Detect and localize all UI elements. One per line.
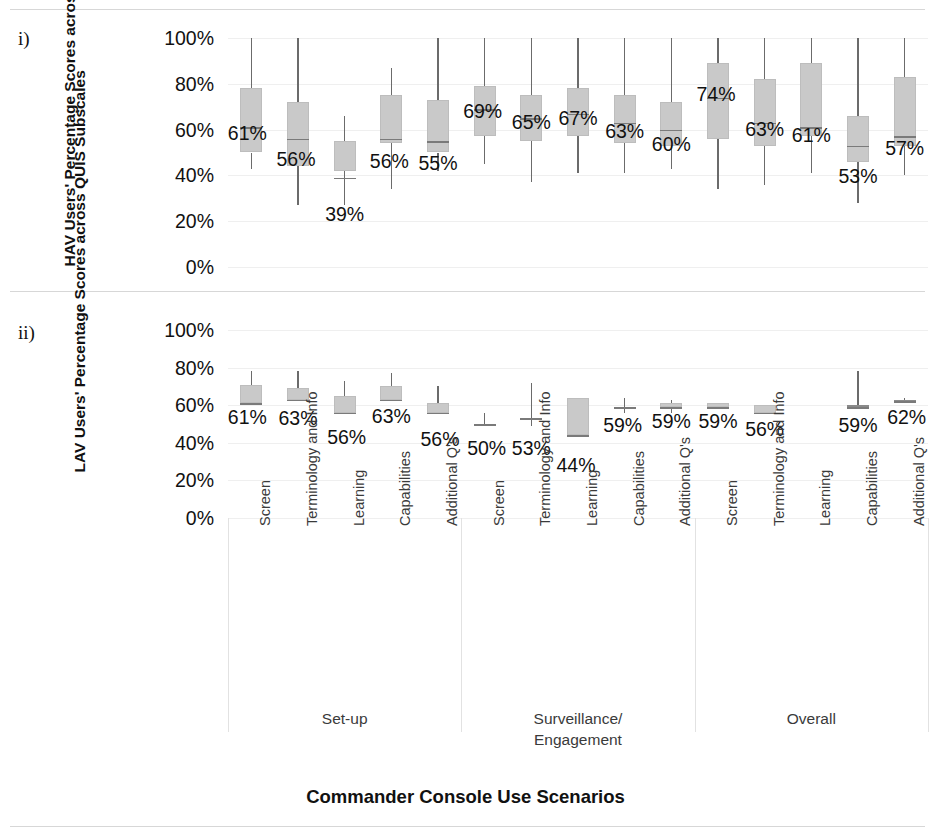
- x-axis-category-label: Capabilities: [397, 451, 413, 526]
- median-line: [847, 146, 869, 148]
- whisker-upper: [717, 38, 719, 63]
- box-value-label: 65%: [512, 111, 551, 134]
- group-label-line: Surveillance/: [461, 708, 694, 729]
- median-line: [334, 178, 356, 180]
- x-axis-category-label: Learning: [817, 470, 833, 526]
- box-iqr: [567, 398, 589, 436]
- median-line: [287, 139, 309, 141]
- y-axis-tick-label: 20%: [175, 469, 214, 492]
- y-axis-tick-label: 20%: [175, 210, 214, 233]
- whisker-lower: [484, 136, 486, 163]
- y-axis-tick-label: 80%: [175, 356, 214, 379]
- median-line: [427, 141, 449, 143]
- whisker-upper: [297, 38, 299, 102]
- group-label-line: Engagement: [461, 729, 694, 750]
- divider-top: [10, 9, 925, 10]
- median-line: [894, 401, 916, 403]
- whisker-upper: [624, 398, 626, 407]
- box-value-label: 59%: [652, 410, 691, 433]
- whisker-upper: [484, 413, 486, 424]
- median-line: [660, 407, 682, 409]
- x-axis-category-label: Screen: [491, 480, 507, 526]
- whisker-lower: [717, 139, 719, 189]
- x-axis-category-label: Terminology and Info: [304, 391, 320, 526]
- group-separator: [461, 518, 462, 732]
- median-line: [380, 400, 402, 402]
- y-axis-tick-label: 0%: [186, 507, 214, 530]
- median-line: [240, 403, 262, 405]
- box-value-label: 67%: [558, 106, 597, 129]
- divider-bottom: [10, 826, 925, 827]
- box-plot-panel-i-1: 56%: [275, 38, 322, 267]
- x-axis-category-label: Capabilities: [864, 451, 880, 526]
- whisker-lower: [764, 146, 766, 185]
- box-value-label: 63%: [745, 117, 784, 140]
- x-axis-category-label: Capabilities: [631, 451, 647, 526]
- box-value-label: 63%: [605, 119, 644, 142]
- whisker-upper: [251, 38, 253, 88]
- box-value-label: 74%: [696, 82, 735, 105]
- whisker-lower: [531, 141, 533, 182]
- x-axis-title: Commander Console Use Scenarios: [0, 786, 931, 808]
- x-axis-category-label: Screen: [724, 480, 740, 526]
- box-iqr: [334, 141, 356, 171]
- box-value-label: 59%: [603, 414, 642, 437]
- box-plot-panel-i-2: 39%: [321, 38, 368, 267]
- box-plot-panel-i-5: 69%: [461, 38, 508, 267]
- median-line: [847, 407, 869, 409]
- y-axis-tick-label: 100%: [164, 27, 214, 50]
- scenario-group-label: Overall: [695, 708, 928, 729]
- x-axis-category-label: Additional Q's: [444, 437, 460, 526]
- gridline: [228, 267, 928, 268]
- figure-root: i) HAV Users' Percentage Scores across Q…: [0, 0, 931, 834]
- whisker-upper: [484, 38, 486, 86]
- box-plot-panel-i-7: 67%: [555, 38, 602, 267]
- box-iqr: [427, 403, 449, 412]
- box-value-label: 39%: [325, 202, 364, 225]
- box-iqr: [380, 386, 402, 399]
- box-iqr: [240, 385, 262, 404]
- median-line: [334, 413, 356, 415]
- whisker-upper: [437, 38, 439, 100]
- whisker-upper: [857, 371, 859, 405]
- x-axis-category-label: Screen: [257, 480, 273, 526]
- group-separator: [695, 518, 696, 732]
- whisker-upper: [624, 38, 626, 95]
- median-line: [567, 435, 589, 437]
- box-value-label: 50%: [467, 437, 506, 460]
- box-value-label: 60%: [652, 132, 691, 155]
- x-axis-category-label: Terminology and Info: [537, 391, 553, 526]
- panel-letter-i: i): [18, 28, 30, 50]
- box-iqr: [334, 396, 356, 413]
- box-iqr: [847, 116, 869, 162]
- y-axis-tick-label: 80%: [175, 72, 214, 95]
- y-axis-tick-label: 100%: [164, 319, 214, 342]
- whisker-upper: [904, 38, 906, 77]
- median-line: [427, 413, 449, 415]
- median-line: [474, 424, 496, 426]
- box-plot-panel-i-9: 60%: [648, 38, 695, 267]
- group-label-line: Overall: [695, 708, 928, 729]
- box-plot-panel-i-14: 57%: [881, 38, 928, 267]
- x-axis-category-label: Additional Q's: [677, 437, 693, 526]
- box-iqr: [427, 100, 449, 153]
- x-axis-category-label: Learning: [351, 470, 367, 526]
- x-axis-category-label: Additional Q's: [911, 437, 927, 526]
- y-axis-tick-label: 60%: [175, 394, 214, 417]
- panel-i-plot-area: 0%20%40%60%80%100%61%56%39%56%55%69%65%6…: [228, 38, 928, 267]
- whisker-upper: [857, 38, 859, 116]
- whisker-lower: [251, 153, 253, 169]
- whisker-upper: [764, 38, 766, 79]
- whisker-upper: [671, 38, 673, 102]
- box-value-label: 59%: [698, 410, 737, 433]
- whisker-upper: [391, 373, 393, 386]
- box-plot-panel-i-10: 74%: [695, 38, 742, 267]
- y-axis-tick-label: 60%: [175, 118, 214, 141]
- whisker-upper: [251, 371, 253, 384]
- box-value-label: 53%: [838, 164, 877, 187]
- box-value-label: 55%: [418, 152, 457, 175]
- box-value-label: 56%: [276, 147, 315, 170]
- whisker-lower: [624, 143, 626, 173]
- median-line: [660, 130, 682, 132]
- box-plot-panel-i-0: 61%: [228, 38, 275, 267]
